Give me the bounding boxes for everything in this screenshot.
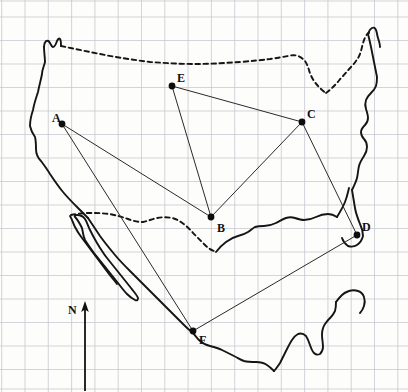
point-marker-B[interactable] — [208, 214, 215, 221]
point-marker-E[interactable] — [169, 83, 176, 90]
us-west-coast-path — [30, 47, 88, 218]
route-E-B[interactable] — [172, 86, 211, 217]
route-E-C[interactable] — [172, 86, 302, 122]
pacific-northwest-notch-path — [44, 39, 61, 47]
compass-north-label: N — [68, 304, 77, 316]
point-marker-F[interactable] — [190, 328, 197, 335]
mexico-west-coast-path — [88, 218, 192, 332]
point-marker-D[interactable] — [354, 232, 361, 239]
us-east-coast-path — [352, 34, 377, 190]
route-layer — [62, 86, 357, 331]
point-label-F: F — [199, 334, 207, 346]
us-mexico-border-path — [71, 213, 216, 252]
campeche-shore-path — [336, 290, 365, 313]
us-canada-border-path — [61, 46, 326, 93]
point-label-C: C — [307, 108, 316, 120]
point-label-B: B — [217, 222, 225, 234]
international-border-layer — [61, 33, 369, 252]
route-B-C[interactable] — [211, 122, 302, 217]
point-label-D: D — [362, 221, 371, 233]
point-label-A: A — [52, 112, 61, 124]
gulf-coast-path — [216, 214, 337, 252]
point-marker-C[interactable] — [299, 119, 306, 126]
coastline-layer — [30, 28, 380, 371]
route-C-D[interactable] — [302, 122, 357, 235]
florida-peninsula-path — [337, 188, 349, 217]
great-lakes-border-path — [326, 33, 369, 93]
baja-peninsula-outer-path — [75, 215, 138, 300]
point-label-E: E — [177, 72, 185, 84]
map-figure: A B C D E F N — [0, 0, 408, 392]
route-A-B[interactable] — [62, 124, 211, 217]
yucatan-peninsula-path — [274, 302, 336, 371]
